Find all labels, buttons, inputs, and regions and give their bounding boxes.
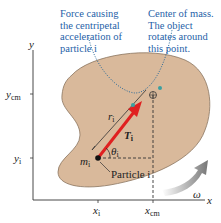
center-of-mass-callout: Center of mass. The object rotates aroun… xyxy=(148,8,214,54)
omega-label: ω xyxy=(193,188,201,200)
tension-label: Ti xyxy=(124,129,133,143)
radius-label: ri xyxy=(108,110,115,124)
x-i-label: xi xyxy=(93,204,100,218)
particle-dot xyxy=(95,155,101,161)
particle-label: Particle i xyxy=(111,168,150,180)
y-axis-label: y xyxy=(29,38,34,50)
y-cm-label: ycm xyxy=(6,88,21,102)
x-cm-label: xcm xyxy=(145,204,160,218)
mass-label: mi xyxy=(80,155,90,169)
centripetal-force-callout: Force causing the centripetal accelerati… xyxy=(60,8,122,54)
y-i-label: yi xyxy=(14,152,21,166)
theta-label: θi xyxy=(111,145,119,159)
x-axis-label: x xyxy=(207,194,212,206)
